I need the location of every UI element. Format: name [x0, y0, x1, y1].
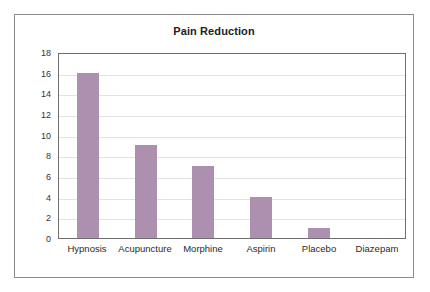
- x-axis: HypnosisAcupunctureMorphineAspirinPlaceb…: [58, 243, 406, 254]
- plot-area: [58, 53, 406, 239]
- x-axis-tick-label: Morphine: [174, 243, 232, 254]
- x-axis-tick-label: Hypnosis: [58, 243, 116, 254]
- bar-slot: [290, 54, 348, 238]
- bar: [250, 197, 272, 238]
- x-axis-tick-label: Acupuncture: [116, 243, 174, 254]
- y-axis: 181614121086420: [29, 53, 55, 239]
- bar-slot: [174, 54, 232, 238]
- bar: [135, 145, 157, 238]
- x-axis-tick-label: Aspirin: [232, 243, 290, 254]
- y-axis-tick-label: 0: [46, 234, 51, 244]
- y-axis-tick-label: 4: [46, 193, 51, 203]
- x-axis-tick-label: Placebo: [290, 243, 348, 254]
- bar: [308, 228, 330, 238]
- y-axis-tick-label: 2: [46, 213, 51, 223]
- chart-frame: Pain Reduction 181614121086420 HypnosisA…: [14, 14, 414, 278]
- y-axis-tick-label: 18: [41, 48, 51, 58]
- y-axis-tick-label: 14: [41, 89, 51, 99]
- x-axis-tick-label: Diazepam: [348, 243, 406, 254]
- chart-title: Pain Reduction: [15, 25, 413, 37]
- bar-slot: [347, 54, 405, 238]
- bar-slot: [117, 54, 175, 238]
- y-axis-tick-label: 16: [41, 69, 51, 79]
- bar-slot: [59, 54, 117, 238]
- bar: [77, 73, 99, 238]
- bar-series: [59, 54, 405, 238]
- y-axis-tick-label: 10: [41, 131, 51, 141]
- y-axis-tick-label: 6: [46, 172, 51, 182]
- y-axis-tick-label: 8: [46, 151, 51, 161]
- y-axis-tick-label: 12: [41, 110, 51, 120]
- bar: [192, 166, 214, 238]
- bar-slot: [232, 54, 290, 238]
